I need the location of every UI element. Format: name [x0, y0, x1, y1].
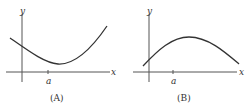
panel-a-x-label: x: [111, 67, 116, 77]
panel-b-tick-label: a: [171, 76, 176, 86]
panel-b: y x a (B): [133, 6, 244, 103]
panel-a-tick-label: a: [46, 76, 51, 86]
panel-b-caption: (B): [177, 93, 191, 103]
panel-a-curve: [10, 26, 107, 64]
panel-b-x-label: x: [239, 67, 244, 77]
panel-a: y x a (A): [6, 6, 116, 103]
panel-b-curve: [143, 37, 239, 66]
panel-a-caption: (A): [50, 93, 64, 103]
figure: y x a (A) y x a (B): [0, 0, 248, 110]
panel-b-y-label: y: [146, 6, 153, 16]
panel-a-y-label: y: [19, 6, 26, 16]
